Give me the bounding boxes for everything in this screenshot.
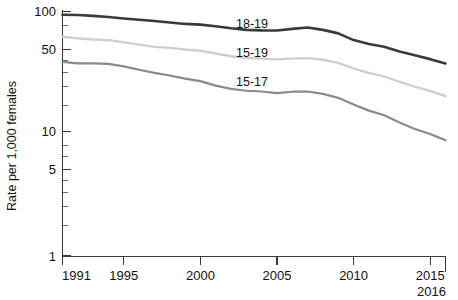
- series-label-15-17: 15-17: [236, 75, 268, 89]
- line-chart: Rate per 1,000 females 100 50 10 5 1: [0, 0, 458, 300]
- y-tick-label: 50: [42, 42, 56, 57]
- y-tick-labels: 100 50 10 5 1: [34, 4, 56, 264]
- y-axis-title: Rate per 1,000 females: [5, 81, 19, 211]
- x-tick-label-end: 2016: [417, 284, 446, 299]
- x-tick-label: 2015: [416, 268, 445, 283]
- series-label-18-19: 18-19: [236, 17, 268, 31]
- chart-svg: Rate per 1,000 females 100 50 10 5 1: [0, 0, 458, 300]
- series-annotations: 18-19 15-19 15-17: [236, 17, 268, 89]
- x-tick-label: 2005: [263, 268, 292, 283]
- series-label-15-19: 15-19: [236, 46, 268, 60]
- y-tick-label: 100: [34, 4, 56, 19]
- x-tick-label: 2010: [339, 268, 368, 283]
- x-tick-label: 1991: [62, 268, 91, 283]
- y-ticks: [63, 12, 72, 256]
- y-tick-label: 10: [42, 124, 56, 139]
- y-tick-label: 5: [49, 162, 56, 177]
- x-tick-label: 1995: [109, 268, 138, 283]
- y-tick-label: 1: [49, 249, 56, 264]
- series-line-15-17: [63, 62, 446, 140]
- x-tick-labels: 1991 1995 2000 2005 2010 2015 2016: [62, 268, 446, 299]
- x-tick-label: 2000: [186, 268, 215, 283]
